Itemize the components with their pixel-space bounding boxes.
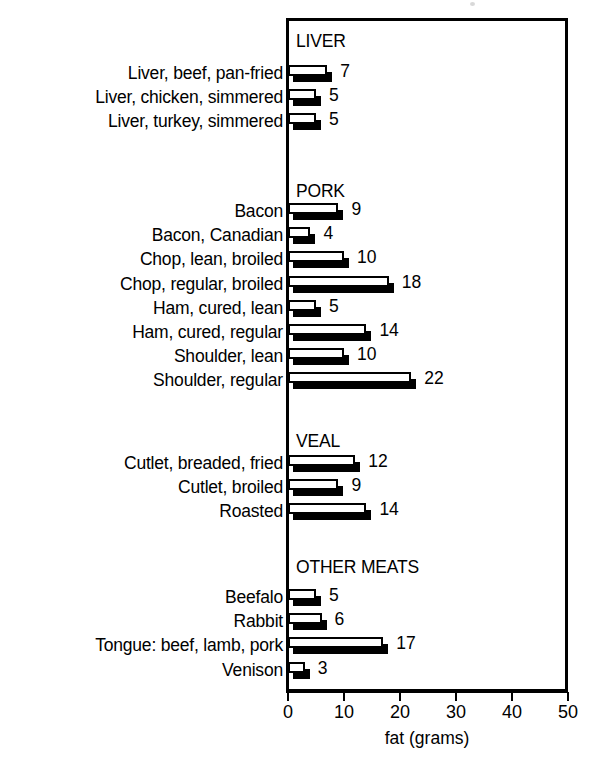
bar-row: Chop, regular, broiled18: [0, 273, 590, 297]
bar-rows-container: Liver, beef, pan-fried7Liver, chicken, s…: [0, 0, 590, 692]
bar: [288, 612, 332, 634]
bar-row: Roasted14: [0, 500, 590, 524]
bar: [288, 636, 393, 658]
bar-row: Bacon9: [0, 200, 590, 224]
bar: [288, 478, 348, 500]
bar-category-label: Venison: [222, 659, 283, 683]
bar: [288, 275, 399, 297]
bar-value-label: 5: [329, 109, 339, 131]
x-axis-tick: [343, 692, 345, 701]
fat-content-bar-chart: Liver, beef, pan-fried7Liver, chicken, s…: [0, 0, 590, 774]
bar-value-label: 14: [379, 320, 398, 342]
x-axis-tick-label: 20: [380, 702, 420, 722]
bar-value-label: 5: [329, 585, 339, 607]
x-axis-tick-label: 30: [436, 702, 476, 722]
bar-row: Tongue: beef, lamb, pork17: [0, 634, 590, 658]
bar-face: [288, 276, 389, 287]
bar-category-label: Chop, lean, broiled: [140, 248, 283, 272]
bar-category-label: Bacon, Canadian: [152, 224, 283, 248]
bar-value-label: 10: [357, 247, 376, 269]
x-axis-tick-label: 10: [324, 702, 364, 722]
bar: [288, 112, 326, 134]
bar-face: [288, 479, 338, 490]
bar-category-label: Beefalo: [225, 586, 283, 610]
bar: [288, 347, 354, 369]
bar-category-label: Ham, cured, regular: [132, 321, 283, 345]
bar-face: [288, 324, 366, 335]
bar-category-label: Chop, regular, broiled: [120, 273, 283, 297]
bar: [288, 371, 421, 393]
bar-value-label: 9: [351, 475, 361, 497]
bar-value-label: 4: [323, 223, 333, 245]
bar-category-label: Shoulder, lean: [174, 345, 283, 369]
bar-face: [288, 348, 344, 359]
bar-face: [288, 227, 310, 238]
bar-row: Cutlet, broiled9: [0, 476, 590, 500]
bar-value-label: 5: [329, 85, 339, 107]
bar-face: [288, 372, 411, 383]
bar: [288, 661, 315, 683]
x-axis-tick-label: 40: [492, 702, 532, 722]
group-heading: VEAL: [296, 432, 340, 450]
bar-category-label: Shoulder, regular: [153, 369, 283, 393]
bar-face: [288, 300, 316, 311]
bar: [288, 250, 354, 272]
group-heading: OTHER MEATS: [296, 558, 419, 576]
bar-row: Beefalo5: [0, 586, 590, 610]
x-axis-tick-label: 0: [268, 702, 308, 722]
bar-row: Shoulder, lean10: [0, 345, 590, 369]
bar-face: [288, 251, 344, 262]
bar-face: [288, 203, 338, 214]
bar-category-label: Cutlet, broiled: [178, 476, 283, 500]
x-axis-line: [286, 690, 568, 693]
x-axis-tick: [287, 692, 289, 701]
bar-category-label: Roasted: [219, 500, 283, 524]
bar-row: Cutlet, breaded, fried12: [0, 452, 590, 476]
bar-category-label: Rabbit: [234, 610, 283, 634]
bar-category-label: Tongue: beef, lamb, pork: [95, 634, 283, 658]
bar-row: Rabbit6: [0, 610, 590, 634]
x-axis-tick: [399, 692, 401, 701]
bar-row: Liver, turkey, simmered5: [0, 110, 590, 134]
bar-value-label: 9: [351, 199, 361, 221]
bar: [288, 323, 376, 345]
bar-face: [288, 455, 355, 466]
bar-category-label: Cutlet, breaded, fried: [124, 452, 283, 476]
bar-category-label: Bacon: [234, 200, 283, 224]
bar: [288, 202, 348, 224]
bar: [288, 454, 365, 476]
bar-face: [288, 589, 316, 600]
bar: [288, 88, 326, 110]
x-axis-title: fat (grams): [286, 728, 568, 749]
bar-row: Liver, beef, pan-fried7: [0, 62, 590, 86]
bar-row: Ham, cured, regular14: [0, 321, 590, 345]
bar-row: Chop, lean, broiled10: [0, 248, 590, 272]
bar-category-label: Liver, turkey, simmered: [108, 110, 283, 134]
bar-face: [288, 89, 316, 100]
bar-value-label: 6: [335, 609, 345, 631]
bar-value-label: 18: [402, 272, 421, 294]
bar-row: Venison3: [0, 659, 590, 683]
group-heading: PORK: [296, 182, 345, 200]
bar-face: [288, 113, 316, 124]
bar-value-label: 17: [396, 633, 415, 655]
x-axis-tick: [511, 692, 513, 701]
bar-category-label: Liver, beef, pan-fried: [128, 62, 283, 86]
bar: [288, 588, 326, 610]
bar-row: Bacon, Canadian4: [0, 224, 590, 248]
bar-face: [288, 503, 366, 514]
bar-row: Liver, chicken, simmered5: [0, 86, 590, 110]
bar: [288, 226, 320, 248]
bar-value-label: 12: [368, 451, 387, 473]
group-heading: LIVER: [296, 32, 346, 50]
x-axis-tick: [455, 692, 457, 701]
bar-row: Shoulder, regular22: [0, 369, 590, 393]
bar: [288, 64, 337, 86]
bar-face: [288, 637, 383, 648]
bar-value-label: 22: [424, 368, 443, 390]
bar-category-label: Ham, cured, lean: [153, 297, 283, 321]
x-axis-tick: [567, 692, 569, 701]
bar-value-label: 14: [379, 499, 398, 521]
bar-category-label: Liver, chicken, simmered: [95, 86, 283, 110]
bar-value-label: 10: [357, 344, 376, 366]
